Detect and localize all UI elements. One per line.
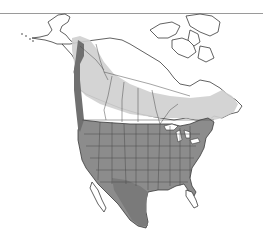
range-map bbox=[0, 0, 263, 242]
florida bbox=[186, 190, 198, 208]
aleutian-islands bbox=[21, 33, 34, 42]
